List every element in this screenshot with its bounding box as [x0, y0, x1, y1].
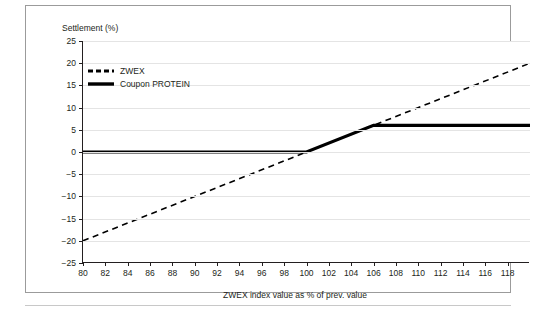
chart-screenshot: Settlement (%) −25−20−15−10−505101520258… — [0, 0, 538, 315]
x-axis-tick — [396, 262, 397, 266]
gridline-y — [83, 196, 530, 197]
y-axis-tick-label: 5 — [71, 125, 76, 135]
x-axis-tick — [307, 262, 308, 266]
x-axis-tick-label: 84 — [123, 268, 132, 278]
gridline-y — [83, 219, 530, 220]
x-axis-tick — [284, 262, 285, 266]
y-axis-tick — [79, 41, 83, 42]
gridline-y — [83, 41, 530, 42]
x-axis-tick-label: 116 — [479, 268, 493, 278]
y-axis-tick — [79, 63, 83, 64]
x-axis-tick-label: 82 — [101, 268, 110, 278]
y-axis-tick — [79, 108, 83, 109]
x-axis-tick — [83, 262, 84, 266]
y-axis-tick-label: 0 — [71, 147, 76, 157]
x-axis-tick — [485, 262, 486, 266]
x-axis-tick — [463, 262, 464, 266]
y-axis-tick-label: −5 — [66, 169, 76, 179]
y-axis-tick — [79, 241, 83, 242]
legend-item-zwex: ZWEX — [88, 64, 190, 77]
footer-divider — [25, 305, 511, 306]
x-axis-tick-label: 80 — [78, 268, 87, 278]
legend-label-zwex: ZWEX — [120, 66, 145, 76]
x-axis-tick-label: 104 — [344, 268, 358, 278]
x-axis-tick — [195, 262, 196, 266]
x-axis-tick — [508, 262, 509, 266]
x-axis-tick-label: 92 — [212, 268, 221, 278]
y-axis-title: Settlement (%) — [62, 23, 118, 33]
y-axis-tick — [79, 174, 83, 175]
y-axis-tick-label: 25 — [67, 36, 76, 46]
x-axis-tick — [374, 262, 375, 266]
y-axis-tick — [79, 152, 83, 153]
chart-legend: ZWEX Coupon PROTEIN — [88, 64, 190, 90]
x-axis-tick-label: 100 — [299, 268, 313, 278]
y-axis-tick-label: −20 — [62, 236, 76, 246]
x-axis-tick — [239, 262, 240, 266]
y-axis-tick — [79, 196, 83, 197]
y-axis-tick-label: 10 — [67, 103, 76, 113]
x-axis-tick-label: 108 — [389, 268, 403, 278]
x-axis-tick-label: 106 — [366, 268, 380, 278]
dashed-line-swatch-icon — [88, 66, 114, 76]
x-axis-tick — [329, 262, 330, 266]
x-axis-tick — [441, 262, 442, 266]
x-axis-tick — [150, 262, 151, 266]
y-axis-tick — [79, 85, 83, 86]
x-axis-tick-label: 88 — [168, 268, 177, 278]
y-axis-tick-label: −15 — [62, 214, 76, 224]
gridline-y — [83, 130, 530, 131]
x-axis-tick — [128, 262, 129, 266]
y-axis-tick-label: 20 — [67, 58, 76, 68]
x-axis-tick-label: 90 — [190, 268, 199, 278]
y-axis-tick-label: −25 — [62, 258, 76, 268]
y-axis-tick — [79, 219, 83, 220]
legend-label-coupon-protein: Coupon PROTEIN — [120, 79, 190, 89]
x-axis-tick-label: 86 — [145, 268, 154, 278]
gridline-y — [83, 108, 530, 109]
x-axis-tick — [351, 262, 352, 266]
gridline-y — [83, 174, 530, 175]
gridline-y — [83, 152, 530, 153]
x-axis-tick-label: 112 — [434, 268, 448, 278]
x-axis-title: ZWEX index value as % of prev. value — [26, 290, 538, 300]
x-axis-tick-label: 102 — [322, 268, 336, 278]
x-axis-tick — [105, 262, 106, 266]
x-axis-tick-label: 94 — [235, 268, 244, 278]
x-axis-tick-label: 98 — [279, 268, 288, 278]
chart-card: Settlement (%) −25−20−15−10−505101520258… — [25, 5, 511, 293]
x-axis-tick — [418, 262, 419, 266]
x-axis-tick-label: 96 — [257, 268, 266, 278]
x-axis-tick — [172, 262, 173, 266]
y-axis-tick — [79, 130, 83, 131]
x-axis-tick-label: 110 — [411, 268, 425, 278]
x-axis-tick-label: 118 — [501, 268, 515, 278]
y-axis-tick-label: 15 — [67, 80, 76, 90]
x-axis-tick — [217, 262, 218, 266]
solid-line-swatch-icon — [88, 79, 114, 89]
gridline-y — [83, 241, 530, 242]
y-axis-tick-label: −10 — [62, 191, 76, 201]
x-axis-tick-label: 114 — [456, 268, 470, 278]
legend-item-coupon-protein: Coupon PROTEIN — [88, 77, 190, 90]
x-axis-tick — [262, 262, 263, 266]
